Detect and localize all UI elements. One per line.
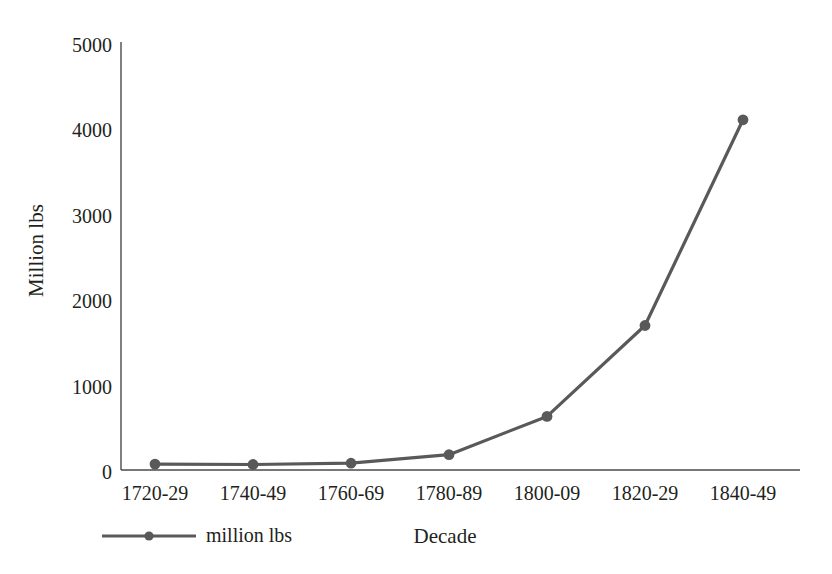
data-point-1800-09: [542, 411, 553, 422]
legend: million lbs: [100, 524, 292, 547]
data-point-1820-29: [640, 320, 651, 331]
x-axis-title: Decade: [385, 524, 505, 549]
y-axis-title: Million lbs: [24, 171, 49, 331]
y-tick-label-4000: 4000: [34, 120, 112, 140]
legend-swatch-icon: [100, 528, 198, 544]
y-tick-label-0: 0: [34, 462, 112, 482]
line-chart: 5000 4000 3000 2000 1000 0 1720-29 1740-…: [0, 0, 832, 574]
legend-label-million-lbs: million lbs: [206, 524, 292, 547]
data-point-1740-49: [248, 459, 259, 470]
y-tick-label-1000: 1000: [34, 377, 112, 397]
data-point-1720-29: [150, 459, 161, 470]
series-line-million-lbs: [155, 120, 743, 465]
x-tick-label-1840-49: 1840-49: [683, 483, 803, 503]
series-markers: [150, 114, 749, 470]
data-point-1760-69: [346, 458, 357, 469]
y-tick-label-5000: 5000: [34, 35, 112, 55]
data-point-1840-49: [738, 114, 749, 125]
data-point-1780-89: [444, 449, 455, 460]
